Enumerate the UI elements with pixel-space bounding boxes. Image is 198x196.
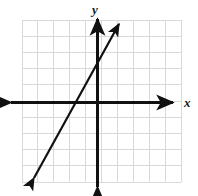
x-axis-label: x	[183, 95, 191, 110]
coordinate-graph-figure: x y	[0, 0, 198, 196]
graph-canvas: x y	[0, 0, 198, 196]
y-axis-label: y	[90, 2, 98, 17]
